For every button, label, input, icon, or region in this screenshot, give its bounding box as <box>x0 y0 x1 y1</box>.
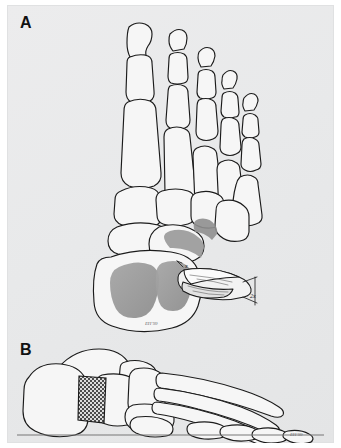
panel-b-drawing <box>7 5 334 443</box>
panel-b-label: B <box>20 342 32 358</box>
figure-container: A x 2x EH '99 <box>0 0 341 448</box>
panel-b-bones <box>23 349 313 443</box>
graft-block-crosshatch <box>78 376 106 423</box>
illustration-plate: A x 2x EH '99 <box>7 5 334 443</box>
graft-block-group <box>78 376 106 423</box>
panel-b-artist-signature: EH '99 <box>290 432 302 437</box>
panel-b: B EH '99 <box>7 5 334 443</box>
